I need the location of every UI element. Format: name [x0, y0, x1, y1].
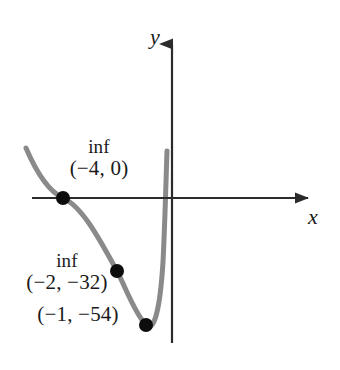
point-a-annotation: inf (−4, 0)	[52, 136, 146, 181]
y-axis-label: y	[150, 24, 160, 50]
point-c-annotation: (−1, −54)	[16, 303, 140, 327]
point-c-dot	[139, 318, 153, 332]
point-b-coordinates: (−2, −32)	[8, 271, 126, 295]
x-axis-label: x	[308, 204, 318, 230]
point-a-coordinates: (−4, 0)	[52, 157, 146, 181]
point-b-inflection-label: inf	[8, 250, 126, 271]
graph-figure: y x inf (−4, 0) inf (−2, −32) (−1, −54)	[0, 0, 340, 370]
point-a-dot	[56, 191, 70, 205]
point-c-coordinates: (−1, −54)	[16, 303, 140, 327]
axes-group	[32, 44, 308, 343]
point-a-inflection-label: inf	[52, 136, 146, 157]
point-b-annotation: inf (−2, −32)	[8, 250, 126, 295]
